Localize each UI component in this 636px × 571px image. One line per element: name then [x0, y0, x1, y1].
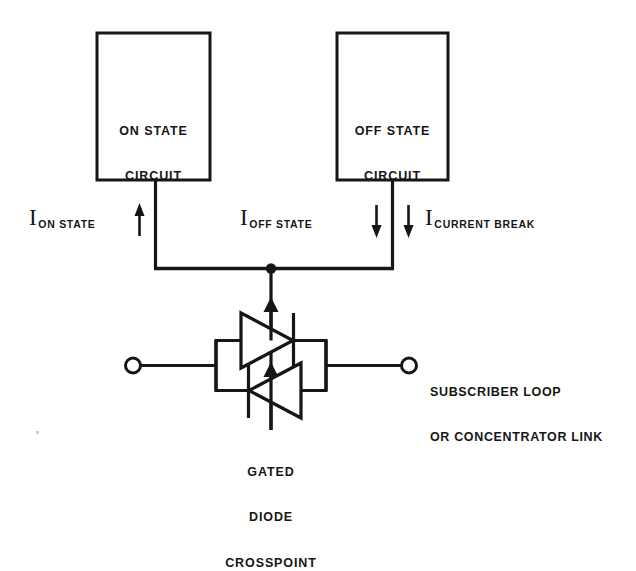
on-state-circuit-label: ON STATE CIRCUIT [97, 93, 210, 215]
crosspoint-caption: GATED DIODE CROSSPOINT [201, 434, 341, 571]
port-label-line2: OR CONCENTRATOR LINK [430, 430, 630, 445]
off-state-circuit-label-line2: CIRCUIT [337, 169, 448, 184]
i-on-state-subscript: ON STATE [38, 218, 95, 231]
i-current-break-label: I CURRENT BREAK [425, 209, 535, 228]
gate-arrowhead-top-icon [264, 297, 279, 312]
off-state-circuit-label: OFF STATE CIRCUIT [337, 93, 448, 215]
right-terminal-icon [402, 358, 417, 373]
i-off-state-symbol: I [240, 209, 249, 227]
i-on-state-symbol: I [29, 209, 38, 227]
i-off-state-label: I OFF STATE [240, 209, 312, 228]
on-state-circuit-label-line2: CIRCUIT [97, 169, 210, 184]
on-state-circuit-label-line1: ON STATE [97, 124, 210, 139]
crosspoint-caption-line1: GATED [201, 465, 341, 480]
off-state-circuit-label-line1: OFF STATE [337, 124, 448, 139]
i-current-break-subscript: CURRENT BREAK [434, 218, 535, 231]
crosspoint-caption-line2: DIODE [201, 510, 341, 525]
i-current-break-symbol: I [425, 209, 434, 227]
scan-artifact-speck [36, 431, 39, 434]
port-label: SUBSCRIBER LOOP OR CONCENTRATOR LINK [430, 354, 630, 476]
crosspoint-caption-line3: CROSSPOINT [201, 556, 341, 571]
i-off-state-subscript: OFF STATE [249, 218, 312, 231]
i-on-state-label: I ON STATE [29, 209, 96, 228]
port-label-line1: SUBSCRIBER LOOP [430, 385, 630, 400]
left-terminal-icon [126, 358, 141, 373]
top-diode-triangle-icon [241, 313, 293, 368]
